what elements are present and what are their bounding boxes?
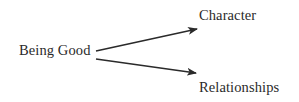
arrow-to-character <box>96 29 197 51</box>
node-character: Character <box>199 8 256 23</box>
node-relationships: Relationships <box>199 80 279 95</box>
node-being-good: Being Good <box>19 43 90 58</box>
arrow-to-relationships <box>96 59 196 73</box>
